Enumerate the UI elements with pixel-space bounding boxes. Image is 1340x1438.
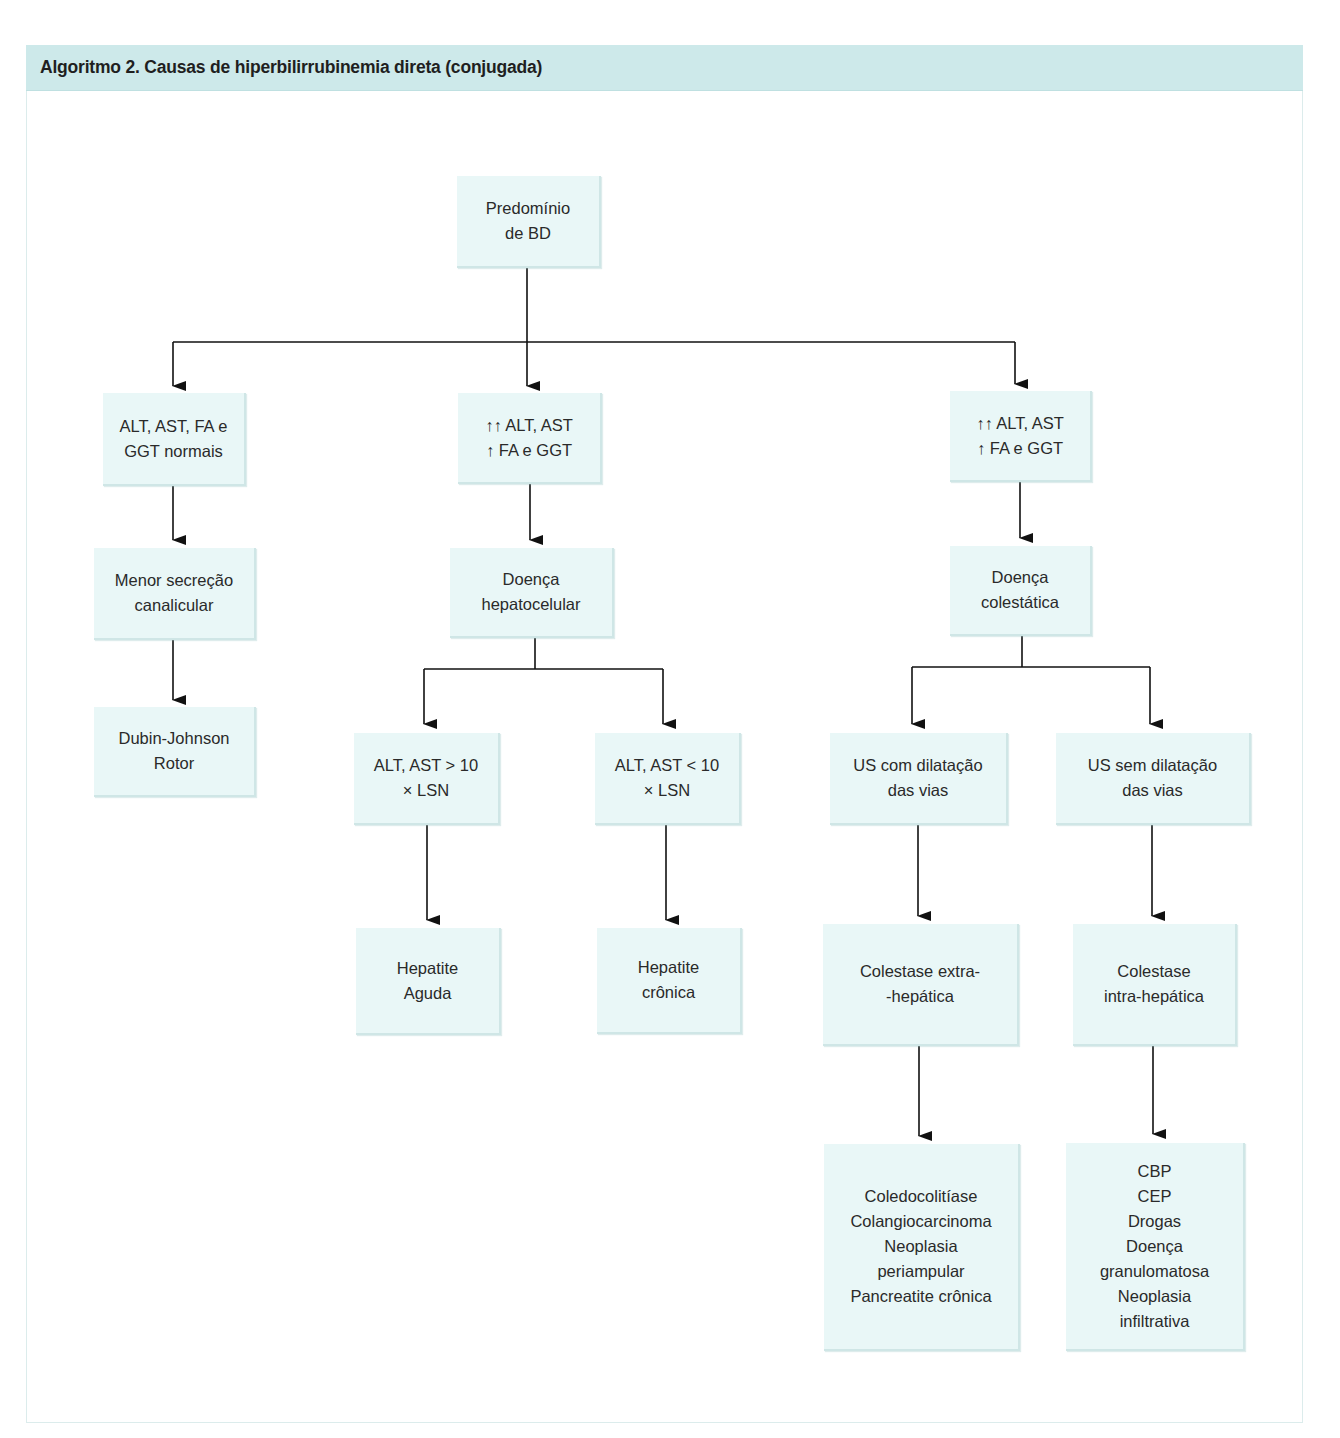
node-line: Pancreatite crônica — [850, 1284, 991, 1309]
node-hepatite-aguda: HepatiteAguda — [356, 928, 501, 1035]
node-line: Colangiocarcinoma — [850, 1209, 991, 1234]
node-line: Predomínio — [486, 196, 570, 221]
node-line: ↑↑ ALT, AST — [485, 413, 573, 438]
node-line: hepatocelular — [481, 592, 580, 617]
node-line: Neoplasia — [1100, 1284, 1209, 1309]
node-line: Colestase — [1104, 959, 1204, 984]
node-menor-secrecao: Menor secreçãocanalicular — [94, 548, 256, 640]
node-line: ↑ FA e GGT — [485, 438, 573, 463]
node-line: periampular — [850, 1259, 991, 1284]
node-hepatite-cronica: Hepatitecrônica — [597, 928, 742, 1034]
node-dubin-johnson-rotor: Dubin-JohnsonRotor — [94, 707, 256, 797]
node-line: colestática — [981, 590, 1059, 615]
node-line: das vias — [853, 778, 982, 803]
node-line: canalicular — [115, 593, 233, 618]
node-colestase-intra-hepatica: Colestaseintra-hepática — [1073, 924, 1237, 1046]
node-line: US sem dilatação — [1088, 753, 1217, 778]
node-line: CBP — [1100, 1159, 1209, 1184]
node-line: ALT, AST > 10 — [374, 753, 478, 778]
node-alt-ast-below-10: ALT, AST < 10× LSN — [595, 733, 741, 825]
node-doenca-hepatocelular: Doençahepatocelular — [450, 548, 614, 638]
node-line: de BD — [486, 221, 570, 246]
node-predominio-bd: Predomíniode BD — [457, 176, 601, 268]
node-line: Hepatite — [397, 956, 458, 981]
node-doenca-colestatica: Doençacolestática — [950, 546, 1092, 636]
node-enzymes-normal: ALT, AST, FA eGGT normais — [103, 393, 246, 486]
node-line: Aguda — [397, 981, 458, 1006]
node-line: crônica — [638, 980, 699, 1005]
node-line: ↑↑ ALT, AST — [976, 411, 1064, 436]
node-enzymes-hepatocellular: ↑↑ ALT, AST↑ FA e GGT — [458, 393, 602, 484]
node-line: Drogas — [1100, 1209, 1209, 1234]
node-enzymes-cholestatic: ↑↑ ALT, AST↑ FA e GGT — [950, 391, 1092, 482]
node-alt-ast-above-10: ALT, AST > 10× LSN — [354, 733, 500, 825]
node-line: Rotor — [119, 751, 230, 776]
node-line: × LSN — [374, 778, 478, 803]
node-line: × LSN — [615, 778, 719, 803]
node-line: Doença — [981, 565, 1059, 590]
node-line: Coledocolitíase — [850, 1184, 991, 1209]
node-line: CEP — [1100, 1184, 1209, 1209]
node-line: intra-hepática — [1104, 984, 1204, 1009]
node-line: Colestase extra- — [860, 959, 980, 984]
node-us-sem-dilatacao: US sem dilataçãodas vias — [1056, 733, 1251, 825]
node-line: das vias — [1088, 778, 1217, 803]
node-colestase-extra-hepatica: Colestase extra--hepática — [823, 924, 1019, 1046]
node-extra-hepatic-causes: Coledocolitíase Colangiocarcinoma Neopla… — [824, 1144, 1020, 1351]
node-line: granulomatosa — [1100, 1259, 1209, 1284]
node-line: GGT normais — [120, 439, 228, 464]
node-line: Doença — [481, 567, 580, 592]
node-line: Doença — [1100, 1234, 1209, 1259]
node-line: ALT, AST < 10 — [615, 753, 719, 778]
node-line: US com dilatação — [853, 753, 982, 778]
node-line: -hepática — [860, 984, 980, 1009]
node-line: ALT, AST, FA e — [120, 414, 228, 439]
node-line: infiltrativa — [1100, 1309, 1209, 1334]
node-line: Hepatite — [638, 955, 699, 980]
node-line: Menor secreção — [115, 568, 233, 593]
node-line: Neoplasia — [850, 1234, 991, 1259]
node-line: ↑ FA e GGT — [976, 436, 1064, 461]
node-intra-hepatic-causes: CBP CEP Drogas Doença granulomatosa Neop… — [1066, 1143, 1245, 1351]
node-line: Dubin-Johnson — [119, 726, 230, 751]
node-us-com-dilatacao: US com dilataçãodas vias — [830, 733, 1008, 825]
